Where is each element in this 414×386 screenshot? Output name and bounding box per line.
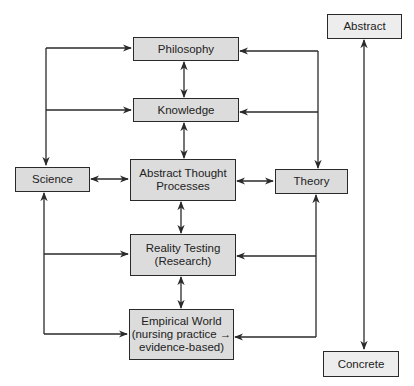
node-science-label: Science — [32, 173, 73, 186]
node-empirical-world-line3: evidence-based) — [139, 341, 224, 354]
node-abstract-thought-line1: Abstract Thought — [139, 167, 226, 180]
node-empirical-world-line2: (nursing practice → — [132, 328, 232, 341]
node-theory: Theory — [275, 169, 348, 194]
node-concrete: Concrete — [323, 351, 399, 377]
node-concrete-label: Concrete — [338, 358, 385, 371]
node-philosophy-label: Philosophy — [158, 43, 214, 56]
node-reality-testing-line2: (Research) — [155, 255, 212, 268]
node-abstract: Abstract — [327, 14, 402, 39]
node-philosophy: Philosophy — [133, 37, 239, 61]
node-empirical-world-line1: Empirical World — [141, 315, 221, 328]
node-reality-testing-line1: Reality Testing — [146, 242, 221, 255]
node-abstract-label: Abstract — [343, 20, 385, 33]
node-theory-label: Theory — [294, 175, 330, 188]
node-reality-testing: Reality Testing (Research) — [130, 234, 236, 276]
node-abstract-thought-processes: Abstract Thought Processes — [130, 159, 236, 201]
node-empirical-world: Empirical World (nursing practice → evid… — [129, 309, 234, 360]
node-science: Science — [15, 167, 90, 192]
node-knowledge-label: Knowledge — [158, 104, 215, 117]
node-knowledge: Knowledge — [133, 98, 239, 122]
node-abstract-thought-line2: Processes — [156, 180, 210, 193]
